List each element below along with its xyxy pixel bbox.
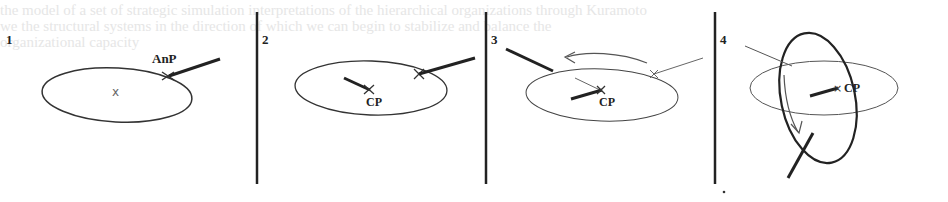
panel-4-light-axis-line (745, 46, 792, 66)
panel-1-number: 1 (6, 32, 13, 47)
panel-4: 4 × CP (720, 26, 898, 178)
panel-4-cp-label: CP (844, 81, 860, 95)
panel-4-tilted-ellipse (768, 26, 868, 171)
panel-3-old-axis-line (506, 49, 553, 71)
panel-3-number: 3 (491, 32, 498, 47)
panel-1: 1 x AnP (6, 32, 220, 126)
panel-3: 3 CP (491, 32, 725, 193)
panel-3-cp-vector (571, 90, 602, 99)
panel-3-rotation-arrow (567, 53, 647, 63)
stray-dot (723, 191, 726, 194)
panel-4-horizontal-ellipse (750, 61, 898, 115)
panel-1-anp-label: AnP (152, 51, 177, 66)
panel-1-axis-line (169, 59, 220, 76)
panel-2-cp-label: CP (366, 95, 382, 109)
panel-4-cp-cross-icon: × (833, 82, 842, 95)
panel-3-light-axis-line (654, 58, 703, 74)
panel-1-center-mark: x (112, 85, 119, 99)
panel-2-cp-vector (344, 78, 370, 90)
figure-diagram: 1 x AnP 2 CP 3 CP 4 × CP (0, 0, 948, 202)
panel-2: 2 CP (262, 32, 475, 118)
panel-3-arrowhead-icon (565, 52, 575, 63)
panel-3-thin-cp-vector (575, 78, 600, 90)
panel-2-axis-line (419, 58, 475, 74)
panel-4-arrowhead-icon (791, 121, 802, 133)
panel-4-number: 4 (720, 32, 727, 47)
panel-2-number: 2 (262, 32, 269, 47)
panel-3-cp-label: CP (599, 95, 615, 109)
